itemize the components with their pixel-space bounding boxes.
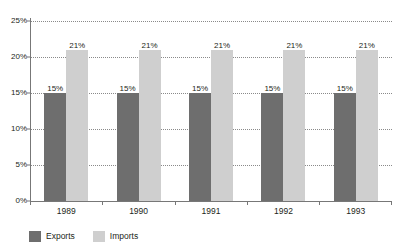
x-tick-mark bbox=[247, 201, 248, 205]
x-label-1992: 1992 bbox=[247, 207, 319, 216]
bar-wrap-exports: 15% bbox=[189, 21, 211, 201]
y-axis-line bbox=[30, 18, 31, 204]
x-axis-line bbox=[30, 201, 392, 202]
chart-legend: Exports Imports bbox=[29, 231, 156, 242]
bar-group-1989: 15% 21% bbox=[30, 21, 102, 201]
bar-wrap-imports: 21% bbox=[66, 21, 88, 201]
x-label-1990: 1990 bbox=[102, 207, 174, 216]
y-axis-tick-marks bbox=[0, 21, 33, 201]
bar-value-label-imports: 21% bbox=[142, 42, 158, 50]
bar-group-1991: 15% 21% bbox=[175, 21, 247, 201]
bar-wrap-exports: 15% bbox=[44, 21, 66, 201]
bar-wrap-imports: 21% bbox=[283, 21, 305, 201]
legend-label-imports: Imports bbox=[110, 232, 138, 241]
bar-pair: 15% 21% bbox=[44, 21, 88, 201]
x-tick-mark bbox=[319, 201, 320, 205]
bar-value-label-imports: 21% bbox=[359, 42, 375, 50]
bar-imports[interactable] bbox=[283, 50, 305, 201]
bar-value-label-imports: 21% bbox=[286, 42, 302, 50]
bar-group-1990: 15% 21% bbox=[102, 21, 174, 201]
bar-wrap-imports: 21% bbox=[139, 21, 161, 201]
bar-wrap-imports: 21% bbox=[356, 21, 378, 201]
bar-wrap-imports: 21% bbox=[211, 21, 233, 201]
bar-imports[interactable] bbox=[139, 50, 161, 201]
bar-wrap-exports: 15% bbox=[117, 21, 139, 201]
x-tick-mark bbox=[30, 201, 31, 205]
bar-exports[interactable] bbox=[334, 93, 356, 201]
bar-chart: 25% 20% 15% 10% 5% 0% 15% bbox=[0, 0, 399, 249]
bar-pair: 15% 21% bbox=[334, 21, 378, 201]
bar-group-1993: 15% 21% bbox=[320, 21, 392, 201]
bar-exports[interactable] bbox=[44, 93, 66, 201]
bar-imports[interactable] bbox=[66, 50, 88, 201]
bar-groups: 15% 21% 15% 21% bbox=[30, 21, 392, 201]
bar-imports[interactable] bbox=[211, 50, 233, 201]
bar-exports[interactable] bbox=[117, 93, 139, 201]
bar-exports[interactable] bbox=[261, 93, 283, 201]
bar-value-label-imports: 21% bbox=[214, 42, 230, 50]
x-axis-labels: 1989 1990 1991 1992 1993 bbox=[30, 207, 392, 216]
bar-value-label-imports: 21% bbox=[69, 42, 85, 50]
x-label-1991: 1991 bbox=[175, 207, 247, 216]
bar-pair: 15% 21% bbox=[117, 21, 161, 201]
bar-imports[interactable] bbox=[356, 50, 378, 201]
legend-swatch-icon-exports bbox=[29, 231, 41, 242]
bar-pair: 15% 21% bbox=[189, 21, 233, 201]
legend-item-imports[interactable]: Imports bbox=[93, 231, 138, 242]
legend-label-exports: Exports bbox=[46, 232, 75, 241]
bar-value-label-exports: 15% bbox=[47, 85, 63, 93]
x-tick-mark bbox=[175, 201, 176, 205]
bar-wrap-exports: 15% bbox=[334, 21, 356, 201]
x-label-1993: 1993 bbox=[320, 207, 392, 216]
bar-value-label-exports: 15% bbox=[337, 85, 353, 93]
legend-item-exports[interactable]: Exports bbox=[29, 231, 75, 242]
x-tick-mark bbox=[102, 201, 103, 205]
x-tick-mark bbox=[391, 201, 392, 205]
bar-value-label-exports: 15% bbox=[264, 85, 280, 93]
x-label-1989: 1989 bbox=[30, 207, 102, 216]
legend-swatch-icon-imports bbox=[93, 231, 105, 242]
bar-pair: 15% 21% bbox=[261, 21, 305, 201]
bar-value-label-exports: 15% bbox=[192, 85, 208, 93]
bar-value-label-exports: 15% bbox=[120, 85, 136, 93]
bar-wrap-exports: 15% bbox=[261, 21, 283, 201]
bar-exports[interactable] bbox=[189, 93, 211, 201]
bar-group-1992: 15% 21% bbox=[247, 21, 319, 201]
